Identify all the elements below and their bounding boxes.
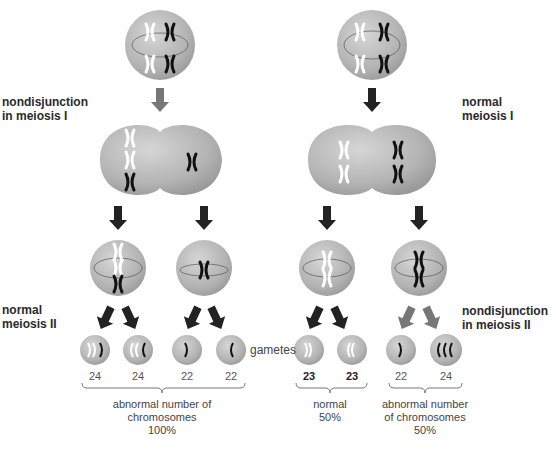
- summary-line: 50%: [380, 424, 470, 437]
- m2-cell-3: [299, 240, 355, 296]
- summary-line: 100%: [112, 424, 212, 437]
- summary-mid: normal50%: [295, 398, 365, 424]
- count: 23: [337, 370, 367, 382]
- count: 22: [172, 370, 202, 382]
- summary-right: abnormal numberof chromosomes50%: [380, 398, 470, 437]
- label-line: meiosis II: [2, 317, 57, 331]
- parent-cell-right: [337, 10, 407, 80]
- label-nondisjunction-meiosis-2: nondisjunctionin meiosis II: [462, 304, 548, 332]
- label-line: in meiosis II: [462, 318, 548, 332]
- label-normal-meiosis-2: normalmeiosis II: [2, 303, 57, 331]
- dividing-cell-right: [308, 125, 436, 195]
- count: 24: [431, 370, 461, 382]
- count: 22: [386, 370, 416, 382]
- label-line: meiosis I: [462, 109, 513, 123]
- summary-line: abnormal number: [380, 398, 470, 411]
- label-gametes: gametes: [250, 343, 296, 357]
- label-line: normal: [2, 303, 57, 317]
- m2-cell-1: [90, 240, 146, 296]
- m2-cell-4: [391, 240, 447, 296]
- summary-line: normal: [295, 398, 365, 411]
- label-normal-meiosis-1: normalmeiosis I: [462, 95, 513, 123]
- summary-left: abnormal number ofchromosomes100%: [112, 398, 212, 437]
- count: 24: [80, 370, 110, 382]
- diagram-graphics: [0, 0, 556, 454]
- label-line: in meiosis I: [2, 109, 88, 123]
- meiosis-nondisjunction-diagram: nondisjunctionin meiosis I normalmeiosis…: [0, 0, 556, 454]
- label-line: nondisjunction: [462, 304, 548, 318]
- summary-line: abnormal number of: [112, 398, 212, 411]
- count: 24: [123, 370, 153, 382]
- parent-cell-left: [125, 10, 195, 80]
- label-nondisjunction-meiosis-1: nondisjunctionin meiosis I: [2, 95, 88, 123]
- label-line: normal: [462, 95, 513, 109]
- summary-line: 50%: [295, 411, 365, 424]
- braces: [82, 383, 462, 393]
- count: 23: [294, 370, 324, 382]
- summary-line: of chromosomes: [380, 411, 470, 424]
- arrow-gray: [151, 88, 169, 112]
- m2-cell-2: [176, 240, 232, 296]
- summary-line: chromosomes: [112, 411, 212, 424]
- dividing-cell-left: [100, 125, 222, 195]
- label-line: nondisjunction: [2, 95, 88, 109]
- count: 22: [216, 370, 246, 382]
